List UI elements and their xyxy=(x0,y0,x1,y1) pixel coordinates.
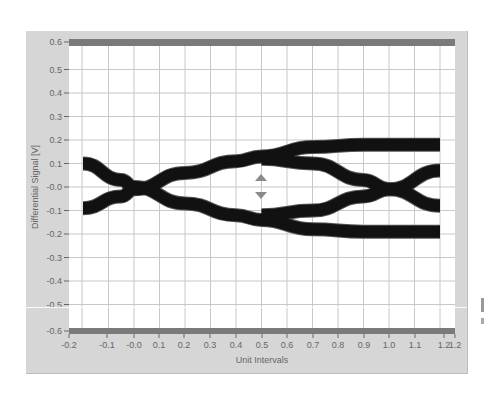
y-tick-label: -0.1 xyxy=(46,206,62,216)
x-tick-label: 0.3 xyxy=(204,340,217,350)
x-tick-label: -0.2 xyxy=(61,340,77,350)
upper-limit-bar xyxy=(69,39,455,46)
y-tick-label: -0.4 xyxy=(46,276,62,286)
y-tick-label: 0.4 xyxy=(49,88,62,98)
y-tick-label: 0.5 xyxy=(49,65,62,75)
x-tick-label: 1.2 xyxy=(449,340,462,350)
y-tick-label: 0.3 xyxy=(49,112,62,122)
x-tick-label: 0.7 xyxy=(307,340,320,350)
x-tick-label: 0.9 xyxy=(358,340,371,350)
y-tick-label: -0.6 xyxy=(46,326,62,336)
x-tick-label: 1.0 xyxy=(383,340,396,350)
x-tick-label: 1.1 xyxy=(409,340,422,350)
x-axis-ticks: -0.2-0.1-0.00.10.20.30.40.50.60.70.80.91… xyxy=(61,334,461,350)
cropped-edge-element xyxy=(481,298,484,312)
x-tick-label: 0.5 xyxy=(256,340,269,350)
x-tick-label: 0.8 xyxy=(332,340,345,350)
x-tick-label: 0.1 xyxy=(153,340,166,350)
lower-limit-bar xyxy=(69,328,455,334)
y-tick-label: -0.5 xyxy=(46,300,62,310)
scan-artifact-line xyxy=(26,307,467,308)
x-tick-label: -0.0 xyxy=(126,340,142,350)
x-tick-label: 0.6 xyxy=(281,340,294,350)
eye-diagram-chart: 0.60.50.40.30.20.1-0.0-0.1-0.2-0.3-0.4-0… xyxy=(0,0,485,400)
y-tick-label: -0.2 xyxy=(46,229,62,239)
x-axis-title: Unit Intervals xyxy=(236,355,289,365)
y-tick-label: 0.2 xyxy=(49,135,62,145)
y-axis-title: Differential Signal [V] xyxy=(30,145,40,229)
y-axis-ticks: 0.60.50.40.30.20.1-0.0-0.1-0.2-0.3-0.4-0… xyxy=(46,37,69,336)
cropped-edge-element-2 xyxy=(481,318,484,324)
y-tick-label: -0.0 xyxy=(46,182,62,192)
x-tick-label: 0.2 xyxy=(178,340,191,350)
y-tick-label: 0.6 xyxy=(49,37,62,47)
y-tick-label: -0.3 xyxy=(46,253,62,263)
x-tick-label: -0.1 xyxy=(99,340,115,350)
x-tick-label: 0.4 xyxy=(230,340,243,350)
y-tick-label: 0.1 xyxy=(49,159,62,169)
